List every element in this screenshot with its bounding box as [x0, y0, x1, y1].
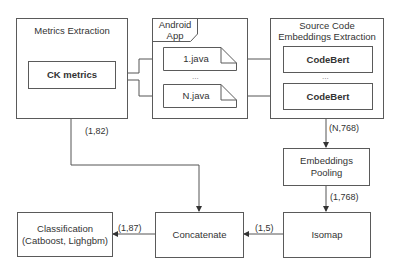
codebert-node-n: CodeBert	[283, 83, 373, 110]
edge-label-codebert-to-pooling: (N,768)	[329, 123, 359, 133]
file-node-n: N.java	[163, 84, 237, 108]
metrics-extraction-title: Metrics Extraction	[17, 25, 127, 36]
edge-label-concat-to-classification: (1,87)	[118, 223, 142, 233]
edge-label-pooling-to-isomap: (1,768)	[330, 192, 359, 202]
edge-label-isomap-to-concat: (1,5)	[255, 223, 274, 233]
file-node-1: 1.java	[163, 47, 237, 71]
source-code-embeddings-title: Source Code Embeddings Extraction	[271, 20, 383, 42]
edge-label-metrics-to-concat: (1,82)	[85, 126, 109, 136]
ck-metrics-node: CK metrics	[28, 61, 116, 89]
concatenate-node: Concatenate	[155, 212, 244, 258]
files-ellipsis: ...	[192, 72, 199, 81]
classification-node: Classification (Catboost, Lighgbm)	[17, 212, 113, 257]
codebert-node-1: CodeBert	[283, 46, 373, 73]
isomap-node: Isomap	[283, 212, 371, 258]
embeddings-pooling-node: Embeddings Pooling	[283, 148, 370, 186]
android-app-title: Android App	[155, 19, 195, 41]
codebert-ellipsis: ...	[322, 72, 329, 81]
